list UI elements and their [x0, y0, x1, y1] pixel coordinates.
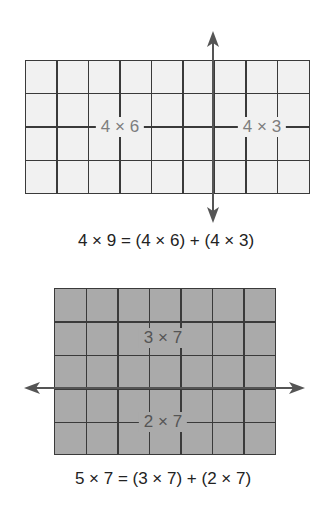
bottom-equation: 5 × 7 = (3 × 7) + (2 × 7) [75, 469, 251, 489]
top-equation: 4 × 9 = (4 × 6) + (4 × 3) [78, 231, 254, 251]
vertical-split-arrow-icon [207, 31, 219, 223]
split-arrows [0, 0, 328, 511]
horizontal-split-arrow-icon [24, 382, 305, 394]
